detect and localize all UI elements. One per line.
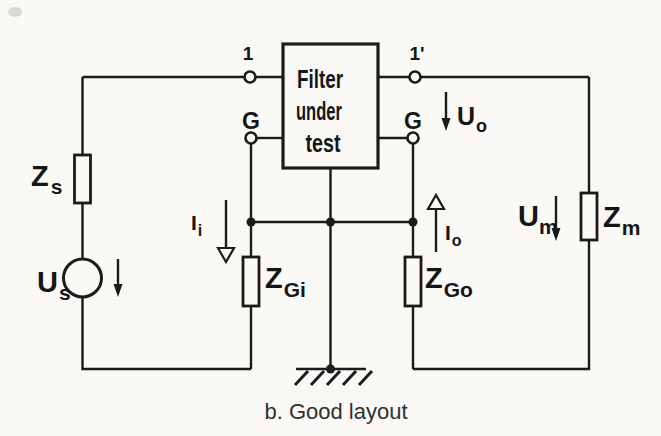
current-io-arrow-icon xyxy=(428,195,444,252)
impedance-zs xyxy=(75,155,91,203)
terminal-g-left-node xyxy=(246,133,257,144)
circuit-diagram: Filter under test xyxy=(0,0,661,436)
junction-dot-right xyxy=(409,218,418,227)
junction-dot-left xyxy=(247,218,256,227)
figure-caption: b. Good layout xyxy=(264,399,407,424)
junction-dot-center xyxy=(326,218,335,227)
source-polarity-arrow-icon xyxy=(114,259,123,297)
current-in-label: Ii xyxy=(191,211,202,239)
wire-right-vertical xyxy=(413,77,589,369)
voltage-uo-arrow-icon xyxy=(442,92,451,131)
terminal-g-right-node xyxy=(408,133,419,144)
z-source-label: Zs xyxy=(31,160,62,198)
terminal-1prime-node xyxy=(410,72,421,83)
u-output-label: Uo xyxy=(457,102,487,136)
u-measured-label: Um xyxy=(518,200,558,238)
impedance-zgo xyxy=(405,257,421,306)
terminal-g-right-label: G xyxy=(404,108,422,134)
wire-bottom-left xyxy=(83,297,252,369)
figure-circuit-good-layout: Filter under test xyxy=(0,0,661,436)
impedance-zm xyxy=(581,193,597,240)
filter-under-test-box: Filter under test xyxy=(283,44,378,168)
current-ii-arrow-icon xyxy=(218,200,234,262)
filter-box-line2: under xyxy=(296,97,342,125)
terminal-g-left-label: G xyxy=(242,108,260,134)
terminal-1prime-label: 1' xyxy=(409,43,424,64)
z-generator-input-label: ZGi xyxy=(265,262,306,301)
filter-box-line3: test xyxy=(306,129,342,157)
paper-smudge xyxy=(8,7,22,17)
terminal-1-node xyxy=(245,72,256,83)
filter-box-line1: Filter xyxy=(297,65,343,93)
terminal-1-label: 1 xyxy=(243,43,254,64)
current-out-label: Io xyxy=(445,221,462,249)
z-generator-output-label: ZGo xyxy=(425,262,473,301)
impedance-zgi xyxy=(243,257,259,306)
z-measured-label: Zm xyxy=(603,201,640,239)
